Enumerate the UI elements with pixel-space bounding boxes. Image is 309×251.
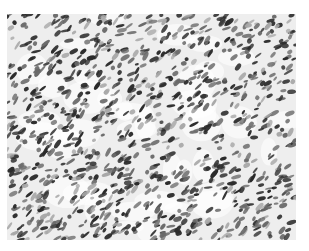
nuclei-texture [7,14,296,240]
histology-image [7,14,296,240]
